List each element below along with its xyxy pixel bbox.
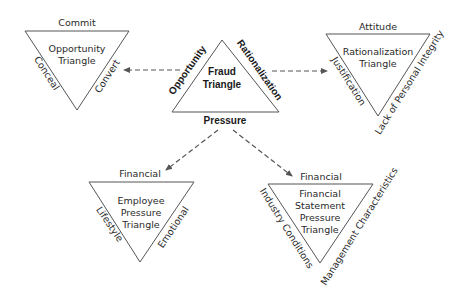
arrow-to-employee-pressure <box>166 130 218 170</box>
rationalization-top-attitude: Attitude <box>359 21 397 32</box>
rationalization-side-integrity: Lack of Personal Integrity <box>372 28 446 137</box>
employee-title-3: Triangle <box>121 219 159 230</box>
employee-pressure-triangle: Financial Employee Pressure Triangle Lif… <box>89 168 194 262</box>
fs-title-4: Triangle <box>300 224 338 235</box>
fraud-side-pressure: Pressure <box>204 115 247 126</box>
opportunity-triangle: Commit Opportunity Triangle Conceal Conv… <box>25 17 129 110</box>
fs-top-financial: Financial <box>300 171 342 182</box>
fs-pressure-triangle: Financial Financial Statement Pressure T… <box>258 165 400 287</box>
fraud-triangle: Fraud Triangle Opportunity Rationalizati… <box>166 38 285 126</box>
rationalization-title-2: Triangle <box>358 58 396 69</box>
fraud-triangle-title-1: Fraud <box>208 66 236 77</box>
rationalization-title-1: Rationalization <box>343 46 414 57</box>
opportunity-top-commit: Commit <box>58 17 96 28</box>
opportunity-title-2: Triangle <box>57 55 95 66</box>
employee-title-2: Pressure <box>121 207 162 218</box>
fs-title-1: Financial <box>299 188 341 199</box>
fraud-triangle-diagram: Fraud Triangle Opportunity Rationalizati… <box>0 0 468 299</box>
fs-title-3: Pressure <box>300 212 341 223</box>
employee-top-financial: Financial <box>119 168 161 179</box>
fraud-side-rationalization: Rationalization <box>235 38 285 103</box>
fraud-triangle-title-2: Triangle <box>203 79 242 90</box>
rationalization-triangle: Attitude Rationalization Triangle Justif… <box>326 21 446 136</box>
employee-title-1: Employee <box>117 195 164 206</box>
opportunity-title-1: Opportunity <box>48 43 105 54</box>
fs-title-2: Statement <box>295 200 345 211</box>
arrow-to-fs-pressure <box>233 130 292 176</box>
opportunity-side-convert: Convert <box>92 57 122 95</box>
